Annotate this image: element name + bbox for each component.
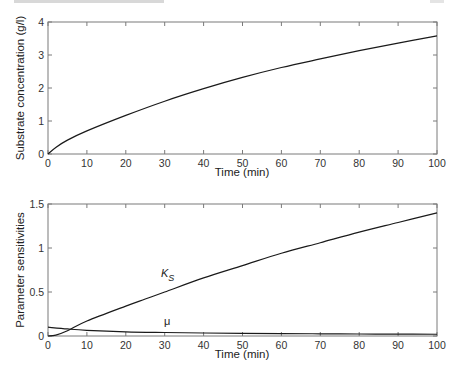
bottom-y-ticks: 00.511.5 [29, 198, 437, 342]
bottom-plot-frame [48, 204, 437, 336]
x-tick-label: 100 [428, 339, 446, 351]
mu-curve-label: μ [164, 315, 170, 327]
bottom-y-axis-title: Parameter sensitivities [14, 212, 26, 328]
sensitivity-plot: 0102030405060708090100 00.511.5 KS μ Tim… [14, 198, 446, 360]
substrate-curve [48, 36, 437, 154]
bottom-x-axis-title: Time (min) [215, 348, 270, 360]
y-tick-label: 0 [38, 148, 44, 160]
x-tick-label: 90 [392, 339, 404, 351]
x-tick-label: 80 [353, 157, 365, 169]
x-tick-label: 0 [45, 157, 51, 169]
x-tick-label: 60 [276, 157, 288, 169]
ks-curve-label: KS [161, 267, 174, 283]
x-tick-label: 70 [314, 157, 326, 169]
y-tick-label: 3 [38, 49, 44, 61]
y-tick-label: 1 [38, 115, 44, 127]
x-tick-label: 20 [120, 157, 132, 169]
figure: 0102030405060708090100 01234 Time (min) … [0, 0, 460, 378]
x-tick-label: 40 [198, 157, 210, 169]
y-tick-label: 0 [38, 330, 44, 342]
top-x-axis-title: Time (min) [215, 166, 270, 178]
y-tick-label: 1 [38, 242, 44, 254]
y-tick-label: 1.5 [29, 198, 44, 210]
mu-sensitivity-curve [48, 327, 437, 334]
substrate-plot: 0102030405060708090100 01234 Time (min) … [14, 16, 446, 178]
x-tick-label: 40 [198, 339, 210, 351]
x-tick-label: 30 [159, 157, 171, 169]
x-tick-label: 30 [159, 339, 171, 351]
x-tick-label: 100 [428, 157, 446, 169]
x-tick-label: 10 [81, 157, 93, 169]
y-tick-label: 2 [38, 82, 44, 94]
x-tick-label: 90 [392, 157, 404, 169]
x-tick-label: 0 [45, 339, 51, 351]
top-plot-frame [48, 22, 437, 154]
x-tick-label: 10 [81, 339, 93, 351]
y-tick-label: 0.5 [29, 286, 44, 298]
top-y-ticks: 01234 [38, 16, 437, 160]
top-x-ticks: 0102030405060708090100 [45, 22, 446, 169]
x-tick-label: 20 [120, 339, 132, 351]
top-y-axis-title: Substrate concentration (g/l) [14, 16, 26, 161]
ks-sensitivity-curve [48, 213, 437, 336]
x-tick-label: 60 [276, 339, 288, 351]
y-tick-label: 4 [38, 16, 44, 28]
x-tick-label: 70 [314, 339, 326, 351]
x-tick-label: 80 [353, 339, 365, 351]
